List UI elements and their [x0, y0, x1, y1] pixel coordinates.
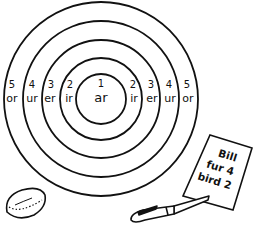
ring-2-points-right: 2	[130, 79, 136, 90]
ring-5-sound-right: or	[182, 92, 194, 105]
ring-1-sound: ar	[94, 90, 108, 105]
dartboard-phonics-game: 1 ar 2 ir 3 er 4 ur 5 or 2 ir 3 er 4 ur …	[0, 0, 260, 232]
ring-5-sound-left: or	[6, 92, 18, 105]
ring-3-points-left: 3	[48, 79, 54, 90]
ring-4-sound-right: ur	[164, 92, 176, 105]
pen-icon	[131, 196, 209, 222]
ring-2-sound-left: ir	[65, 92, 73, 105]
ring-3-points-right: 3	[148, 79, 154, 90]
ring-4-points-left: 4	[29, 79, 35, 90]
disc-icon	[7, 188, 46, 218]
ring-5-points-right: 5	[184, 79, 190, 90]
ring-5-points-left: 5	[9, 79, 15, 90]
ring-4-points-right: 4	[166, 79, 172, 90]
ring-2-sound-right: ir	[130, 92, 138, 105]
scorecard: Bill fur 4 bird 2	[183, 135, 252, 210]
ring-1-points: 1	[98, 78, 104, 89]
ring-3-sound-left: er	[44, 92, 56, 105]
illustration: 1 ar 2 ir 3 er 4 ur 5 or 2 ir 3 er 4 ur …	[0, 0, 260, 232]
ring-3-sound-right: er	[146, 92, 158, 105]
ring-2-points-left: 2	[67, 79, 73, 90]
ring-4-sound-left: ur	[26, 92, 38, 105]
